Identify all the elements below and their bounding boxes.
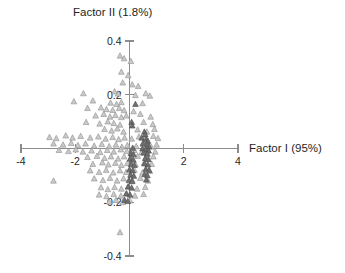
chart-title: Factor II (1.8%)	[73, 6, 152, 18]
data-point-open	[109, 128, 115, 133]
data-point-open	[56, 147, 62, 152]
data-point-open	[90, 98, 96, 103]
data-point-open	[71, 98, 77, 103]
data-point-open	[119, 186, 125, 191]
data-point-open	[96, 192, 102, 197]
data-point-open	[68, 140, 74, 145]
data-point-open	[96, 169, 102, 174]
data-point-open	[110, 170, 116, 175]
data-point-open	[83, 119, 89, 124]
data-point-open	[122, 135, 128, 140]
data-point-open	[80, 149, 86, 154]
data-point-open	[116, 136, 122, 141]
data-point-open	[87, 135, 93, 140]
data-point-open	[110, 134, 116, 139]
data-point-open	[78, 133, 84, 138]
data-point-open	[138, 111, 144, 116]
x-axis-label: Factor I (95%)	[249, 142, 322, 154]
data-point-open	[105, 162, 111, 167]
data-point-dark	[133, 101, 139, 106]
data-point-open	[98, 105, 104, 110]
data-point-open	[119, 114, 125, 119]
scatter-plot-figure: -4-2240.40.2-0.2-0.4 Factor II (1.8%) Fa…	[0, 0, 345, 273]
data-point-open	[154, 142, 160, 147]
data-point-open	[111, 191, 117, 196]
data-point-open	[114, 101, 120, 106]
data-point-open	[135, 83, 141, 88]
data-point-open	[110, 107, 116, 112]
data-point-open	[114, 178, 120, 183]
data-point-open	[115, 156, 121, 161]
plot-canvas: -4-2240.40.2-0.2-0.4 Factor II (1.8%) Fa…	[0, 0, 345, 273]
data-point-open	[85, 105, 91, 110]
data-point-open	[70, 135, 76, 140]
data-point-open	[111, 149, 117, 154]
data-point-open	[142, 184, 148, 189]
data-point-open	[104, 106, 110, 111]
data-point-open	[121, 129, 127, 134]
data-point-open	[141, 191, 147, 196]
data-point-open	[60, 142, 66, 147]
data-point-open	[135, 127, 141, 132]
data-point-open	[129, 82, 135, 87]
axes-group	[21, 41, 238, 256]
data-point-open	[119, 162, 125, 167]
y-tick-label: 0.4	[107, 35, 122, 47]
data-point-open	[83, 141, 89, 146]
data-point-open	[91, 143, 97, 148]
data-point-open	[148, 114, 154, 119]
x-tick-label: 4	[235, 155, 241, 167]
data-point-open	[93, 113, 99, 118]
data-point-open	[97, 121, 103, 126]
data-point-open	[134, 186, 140, 191]
data-point-open	[119, 69, 125, 74]
data-point-open	[120, 80, 126, 85]
data-point-open	[85, 154, 91, 159]
data-point-open	[113, 142, 119, 147]
data-point-open	[121, 176, 127, 181]
data-point-open	[95, 134, 101, 139]
data-point-open	[103, 136, 109, 141]
data-point-open	[107, 175, 113, 180]
data-point-open	[150, 121, 156, 126]
y-tick-label: -0.4	[103, 250, 121, 262]
data-point-open	[47, 134, 53, 139]
data-point-open	[141, 119, 147, 124]
data-point-open	[117, 53, 123, 58]
data-point-open	[105, 186, 111, 191]
data-point-open	[99, 141, 105, 146]
data-point-open	[91, 176, 97, 181]
data-point-open	[111, 120, 117, 125]
data-point-open	[102, 126, 108, 131]
data-point-open	[131, 108, 137, 113]
data-point-open	[81, 90, 87, 95]
x-tick-label: 2	[181, 155, 187, 167]
data-point-open	[112, 184, 118, 189]
data-point-open	[123, 113, 129, 118]
data-point-open	[98, 184, 104, 189]
data-point-open	[63, 133, 69, 138]
data-point-open	[53, 135, 59, 140]
x-tick-label: -4	[16, 155, 25, 167]
data-point-open	[113, 112, 119, 117]
x-tick-label: -2	[71, 155, 80, 167]
data-point-open	[51, 178, 57, 183]
data-point-open	[151, 133, 157, 138]
data-point-open	[125, 72, 131, 77]
data-point-open	[100, 177, 106, 182]
data-point-open	[90, 161, 96, 166]
data-point-open	[128, 58, 134, 63]
data-point-open	[121, 154, 127, 159]
data-point-open	[87, 168, 93, 173]
data-point-open	[103, 167, 109, 172]
data-point-open	[117, 168, 123, 173]
data-point-open	[51, 141, 57, 146]
data-point-open	[117, 229, 123, 234]
data-point-open	[143, 90, 149, 95]
data-point-open	[97, 149, 103, 154]
data-point-open	[140, 100, 146, 105]
